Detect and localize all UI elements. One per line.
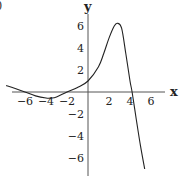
x-tick-label: −2 xyxy=(59,95,75,108)
x-tick-label: −6 xyxy=(17,95,33,108)
y-tick-label: 6 xyxy=(77,20,84,33)
x-tick-label: 6 xyxy=(148,95,155,108)
y-tick-label: −4 xyxy=(68,130,84,143)
panel-marker: ) xyxy=(0,0,2,12)
y-axis-label: y xyxy=(83,0,92,14)
y-tick-label: −2 xyxy=(68,108,84,121)
chart: ) x y −6−4−2246 642−2−4−6 xyxy=(0,0,179,176)
x-tick-label: 2 xyxy=(106,95,113,108)
y-tick-label: 2 xyxy=(77,64,84,77)
x-axis-label: x xyxy=(170,84,178,99)
y-tick-label: 4 xyxy=(77,42,84,55)
y-tick-label: −6 xyxy=(68,152,84,165)
